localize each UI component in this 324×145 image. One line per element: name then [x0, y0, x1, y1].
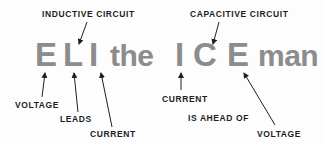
eli-the-ice-man-diagram: INDUCTIVE CIRCUIT CAPACITIVE CIRCUIT E L… [0, 0, 324, 145]
letter-e-voltage-2: E [227, 38, 249, 71]
label-eli-leads: LEADS [60, 115, 92, 124]
arrow-eli-voltage [42, 73, 45, 97]
label-ice-voltage: VOLTAGE [257, 130, 301, 139]
letter-i-current: I [89, 38, 98, 71]
letter-l-inductance: L [63, 38, 83, 71]
letter-c-capacitance: C [193, 38, 217, 71]
label-capacitive-circuit: CAPACITIVE CIRCUIT [190, 10, 288, 19]
letter-i-current-2: I [175, 38, 184, 71]
word-man: man [258, 41, 318, 71]
arrow-eli-current [101, 73, 112, 127]
letter-e-voltage: E [35, 38, 57, 71]
label-inductive-circuit: INDUCTIVE CIRCUIT [42, 10, 135, 19]
label-eli-voltage: VOLTAGE [15, 101, 59, 110]
word-the: the [110, 41, 154, 71]
arrow-eli-leads [74, 73, 78, 112]
label-eli-current: CURRENT [90, 130, 136, 139]
label-ice-current: CURRENT [162, 95, 208, 104]
label-ice-is-ahead-of: IS AHEAD OF [188, 114, 249, 123]
